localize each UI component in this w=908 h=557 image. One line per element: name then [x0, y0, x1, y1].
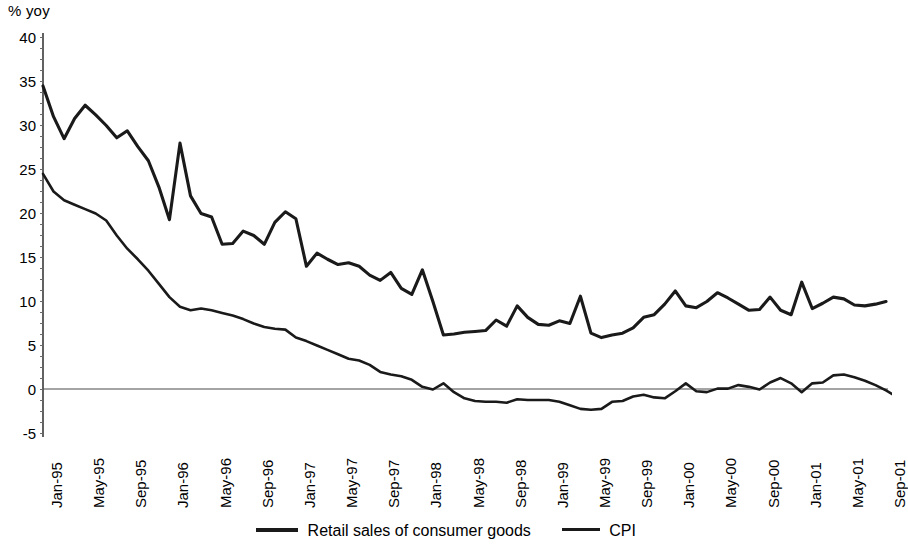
x-axis-tick-label: Jan-96 — [175, 462, 190, 508]
x-axis-tick-label: May-97 — [344, 458, 359, 508]
x-axis-tick-label: Jan-97 — [302, 462, 317, 508]
x-axis-tick-label: May-01 — [850, 458, 865, 508]
x-axis-tick-label: May-00 — [723, 458, 738, 508]
legend-swatch-cpi — [562, 528, 600, 531]
x-axis-tick-label: Sep-99 — [639, 460, 654, 508]
chart-legend: Retail sales of consumer goods CPI — [0, 521, 892, 540]
x-axis-tick-label: Sep-01 — [892, 460, 907, 508]
legend-label-retail-sales: Retail sales of consumer goods — [308, 522, 531, 540]
x-axis-tick-label: Jan-95 — [49, 462, 64, 508]
x-axis-tick-label: Sep-96 — [260, 460, 275, 508]
x-axis-tick-label: Jan-00 — [681, 462, 696, 508]
legend-item-cpi: CPI — [562, 521, 636, 540]
x-axis-tick-label: Sep-97 — [386, 460, 401, 508]
x-axis-tick-label: Sep-00 — [766, 460, 781, 508]
legend-item-retail-sales: Retail sales of consumer goods — [256, 521, 531, 540]
x-axis-tick-label: May-96 — [218, 458, 233, 508]
series-line-retail-sales — [43, 86, 886, 338]
legend-label-cpi: CPI — [609, 522, 636, 540]
x-axis-tick-label: Sep-98 — [513, 460, 528, 508]
x-axis-tick-label: Jan-01 — [808, 462, 823, 508]
x-axis-tick-label: May-99 — [597, 458, 612, 508]
x-axis-tick-label: May-95 — [91, 458, 106, 508]
legend-swatch-retail-sales — [256, 528, 298, 532]
x-axis-tick-label: Jan-98 — [428, 462, 443, 508]
x-axis-tick-label: Jan-99 — [555, 462, 570, 508]
x-axis-tick-label: May-98 — [471, 458, 486, 508]
x-axis-tick-label: Sep-95 — [133, 460, 148, 508]
